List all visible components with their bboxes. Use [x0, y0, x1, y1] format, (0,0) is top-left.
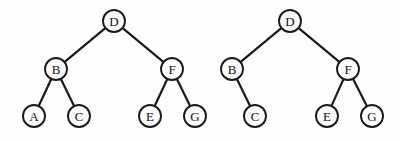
tree-nodes-right-tree: DBFCEG [221, 10, 383, 127]
tree-node-right-tree-E[interactable]: E [316, 105, 338, 127]
node-circle-G [184, 105, 206, 127]
node-circle-B [221, 58, 243, 80]
node-circle-B [45, 58, 67, 80]
tree-node-right-tree-F[interactable]: F [337, 58, 359, 80]
tree-edge-B-C [61, 78, 75, 106]
tree-node-right-tree-C[interactable]: C [244, 105, 266, 127]
node-circle-C [244, 105, 266, 127]
tree-node-left-tree-C[interactable]: C [68, 105, 90, 127]
tree-nodes-left-tree: DBFACEG [23, 10, 206, 127]
edges-layer [38, 28, 367, 107]
nodes-layer: DBFACEGDBFCEG [23, 10, 383, 127]
tree-node-left-tree-A[interactable]: A [23, 105, 45, 127]
tree-node-left-tree-B[interactable]: B [45, 58, 67, 80]
node-circle-D [103, 10, 125, 32]
node-circle-A [23, 105, 45, 127]
tree-edge-D-B [240, 28, 282, 63]
tree-node-right-tree-G[interactable]: G [361, 105, 383, 127]
tree-node-left-tree-F[interactable]: F [161, 58, 183, 80]
tree-node-left-tree-D[interactable]: D [103, 10, 125, 32]
node-circle-D [279, 10, 301, 32]
tree-node-right-tree-B[interactable]: B [221, 58, 243, 80]
node-circle-F [161, 58, 183, 80]
tree-node-left-tree-E[interactable]: E [139, 105, 161, 127]
node-circle-E [139, 105, 161, 127]
tree-edge-D-F [298, 28, 340, 63]
node-circle-E [316, 105, 338, 127]
binary-tree-figure: DBFACEGDBFCEG [0, 0, 401, 141]
tree-edge-B-C [237, 78, 251, 106]
tree-edge-F-G [177, 78, 191, 106]
node-circle-F [337, 58, 359, 80]
tree-edge-D-B [64, 28, 106, 63]
tree-edge-B-A [38, 79, 51, 107]
tree-edge-F-E [154, 79, 167, 107]
node-circle-C [68, 105, 90, 127]
tree-node-left-tree-G[interactable]: G [184, 105, 206, 127]
tree-edge-D-F [122, 28, 164, 63]
tree-node-right-tree-D[interactable]: D [279, 10, 301, 32]
node-circle-G [361, 105, 383, 127]
tree-edge-F-E [331, 79, 343, 107]
tree-diagram-canvas: DBFACEGDBFCEG [0, 0, 401, 141]
tree-edge-F-G [353, 78, 367, 106]
